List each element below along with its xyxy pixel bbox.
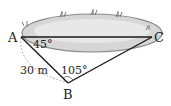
length-ab-label: 30 m bbox=[20, 65, 48, 76]
point-b-label: B bbox=[63, 88, 73, 101]
point-a-label: A bbox=[8, 31, 17, 44]
angle-a-label: 45° bbox=[33, 39, 53, 50]
pond-diagram bbox=[0, 0, 171, 106]
point-c-label: C bbox=[154, 31, 164, 44]
angle-b-label: 105° bbox=[61, 65, 88, 76]
